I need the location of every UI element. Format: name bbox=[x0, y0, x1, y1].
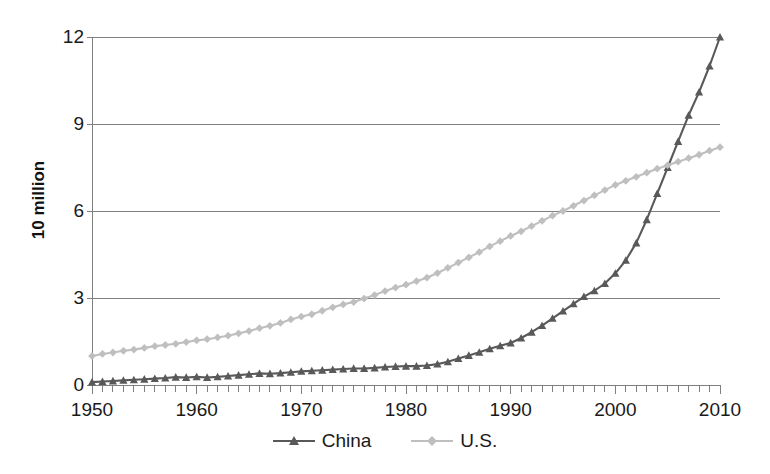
data-point-marker bbox=[643, 216, 651, 224]
data-point-marker bbox=[214, 334, 222, 342]
data-point-marker bbox=[413, 277, 421, 285]
data-point-marker bbox=[580, 197, 588, 205]
data-point-marker bbox=[287, 316, 295, 324]
data-point-marker bbox=[99, 350, 107, 358]
chart-legend: China U.S. bbox=[0, 430, 770, 452]
legend-swatch-china bbox=[273, 433, 315, 449]
data-point-marker bbox=[632, 173, 640, 181]
legend-item-china[interactable]: China bbox=[273, 430, 372, 452]
data-point-marker bbox=[203, 335, 211, 343]
data-point-marker bbox=[580, 292, 588, 300]
data-point-marker bbox=[423, 274, 431, 282]
data-point-marker bbox=[256, 324, 264, 332]
data-point-marker bbox=[475, 248, 483, 256]
data-point-marker bbox=[392, 284, 400, 292]
data-point-marker bbox=[402, 281, 410, 289]
data-point-marker bbox=[434, 269, 442, 277]
data-point-marker bbox=[266, 322, 274, 330]
data-point-marker bbox=[685, 111, 693, 119]
data-point-marker bbox=[705, 62, 713, 70]
data-point-marker bbox=[674, 158, 682, 166]
data-point-marker bbox=[538, 217, 546, 225]
data-point-marker bbox=[559, 207, 567, 215]
data-point-marker bbox=[591, 191, 599, 199]
data-point-marker bbox=[444, 264, 452, 272]
data-point-marker bbox=[622, 177, 630, 185]
data-point-marker bbox=[695, 151, 703, 159]
data-point-marker bbox=[88, 352, 96, 360]
data-point-marker bbox=[706, 147, 714, 155]
data-point-marker bbox=[151, 342, 159, 350]
data-point-marker bbox=[339, 300, 347, 308]
data-point-marker bbox=[507, 232, 515, 240]
data-point-marker bbox=[517, 334, 525, 342]
data-point-marker bbox=[685, 154, 693, 162]
legend-swatch-us bbox=[411, 433, 453, 449]
data-point-marker bbox=[674, 137, 682, 145]
data-point-marker bbox=[486, 242, 494, 250]
data-point-marker bbox=[360, 295, 368, 303]
data-point-marker bbox=[245, 327, 253, 335]
legend-label-china: China bbox=[322, 430, 372, 452]
data-point-marker bbox=[716, 143, 724, 151]
data-point-marker bbox=[653, 165, 661, 173]
data-point-marker bbox=[297, 313, 305, 321]
data-point-marker bbox=[496, 237, 504, 245]
data-point-marker bbox=[549, 212, 557, 220]
data-point-marker bbox=[381, 287, 389, 295]
data-point-marker bbox=[308, 310, 316, 318]
line-chart: 10 million 036912 1950196019701980199020… bbox=[0, 0, 770, 474]
data-point-marker bbox=[120, 347, 128, 355]
data-point-marker bbox=[224, 332, 232, 340]
data-point-marker bbox=[161, 341, 169, 349]
data-point-marker bbox=[695, 88, 703, 96]
plot-area bbox=[0, 0, 770, 474]
legend-label-us: U.S. bbox=[460, 430, 497, 452]
data-point-marker bbox=[193, 336, 201, 344]
data-point-marker bbox=[277, 319, 285, 327]
data-point-marker bbox=[517, 227, 525, 235]
data-point-marker bbox=[611, 181, 619, 189]
data-point-marker bbox=[109, 349, 117, 357]
data-point-marker bbox=[329, 303, 337, 311]
data-point-marker bbox=[454, 259, 462, 267]
data-point-marker bbox=[182, 338, 190, 346]
data-point-marker bbox=[350, 298, 358, 306]
data-point-marker bbox=[465, 254, 473, 262]
data-point-marker bbox=[318, 307, 326, 315]
data-point-marker bbox=[528, 222, 536, 230]
legend-item-us[interactable]: U.S. bbox=[411, 430, 497, 452]
data-point-marker bbox=[643, 169, 651, 177]
series-line-china bbox=[92, 37, 720, 382]
data-point-marker bbox=[130, 346, 138, 354]
data-point-marker bbox=[632, 239, 640, 247]
data-point-marker bbox=[570, 202, 578, 210]
data-point-marker bbox=[140, 344, 148, 352]
data-point-marker bbox=[172, 340, 180, 348]
data-point-marker bbox=[235, 329, 243, 337]
data-point-marker bbox=[601, 186, 609, 194]
data-point-marker bbox=[653, 190, 661, 198]
